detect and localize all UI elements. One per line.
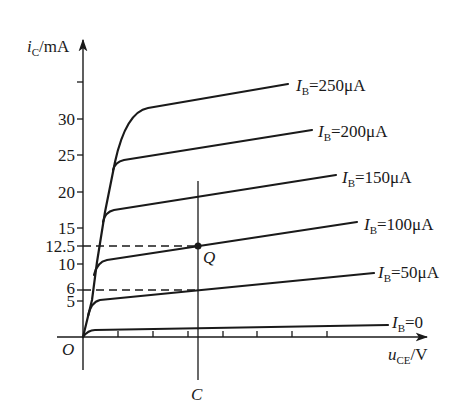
svg-text:6: 6 [67,279,76,298]
x-ticks [118,331,327,337]
svg-text:12.5: 12.5 [45,237,75,256]
label-ib-250: IB=250μA [295,76,366,97]
curve-ib-50 [88,273,374,316]
origin-label: O [62,340,74,359]
y-ticks [77,82,83,301]
x-axis-label: uCE/V [388,345,428,366]
svg-text:15: 15 [58,219,75,238]
q-point [195,243,202,250]
curve-ib-250 [115,84,288,162]
svg-text:30: 30 [58,110,75,129]
label-ib-150: IB=150μA [341,168,412,189]
c-label: C [191,385,203,404]
q-label: Q [203,248,215,267]
label-ib-100: IB=100μA [363,215,434,236]
label-ib-50: IB=50μA [377,263,440,284]
transistor-output-characteristics-chart: iC/mA uCE/V O 5 6 10 12.5 15 20 25 30 [0,0,473,409]
saturation-boundary [83,162,115,337]
svg-text:20: 20 [58,183,75,202]
y-axis-label: iC/mA [27,37,70,58]
svg-text:25: 25 [58,146,75,165]
label-ib-0: IB=0 [391,313,423,334]
curve-ib-150 [103,175,336,222]
curve-ib-100 [94,222,357,275]
curve-ib-0 [83,325,388,337]
label-ib-200: IB=200μA [317,122,388,143]
svg-text:10: 10 [58,255,75,274]
curve-ib-200 [113,130,312,170]
y-tick-labels: 5 6 10 12.5 15 20 25 30 [45,110,75,311]
